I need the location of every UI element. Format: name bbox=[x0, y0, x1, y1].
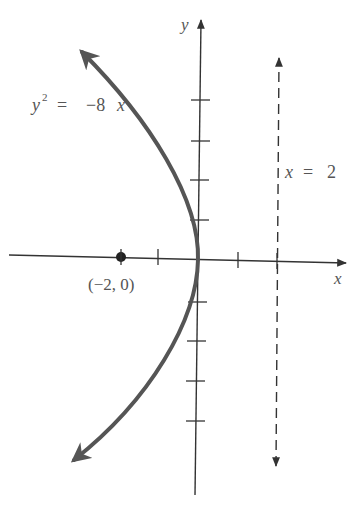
svg-text:x: x bbox=[284, 162, 293, 182]
svg-text:2: 2 bbox=[327, 162, 336, 182]
focus-label: (−2, 0) bbox=[88, 275, 134, 294]
directrix-label: x = 2 bbox=[284, 162, 336, 182]
x-axis bbox=[9, 255, 346, 263]
equation-label: y 2 = −8 x bbox=[30, 91, 125, 115]
svg-text:x: x bbox=[116, 95, 125, 115]
y-axis-label: y bbox=[179, 15, 189, 34]
parabola-diagram: y x (−2, 0) y 2 = −8 x x = 2 bbox=[0, 0, 351, 511]
svg-text:=: = bbox=[303, 162, 313, 182]
svg-text:2: 2 bbox=[42, 91, 48, 103]
svg-text:=: = bbox=[57, 95, 67, 115]
svg-text:−8: −8 bbox=[86, 95, 105, 115]
x-axis-label: x bbox=[333, 269, 342, 288]
svg-text:y: y bbox=[30, 95, 40, 115]
